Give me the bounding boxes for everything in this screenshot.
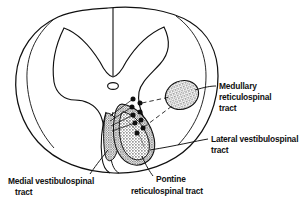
label-line: tract — [211, 145, 229, 155]
neuron-dot — [135, 131, 140, 136]
neuron-dot — [138, 110, 143, 115]
medullary-reticulospinal-tract-region — [161, 76, 203, 115]
central-canal — [108, 83, 119, 90]
label-line: Medial vestibulospinal — [8, 176, 94, 186]
medullary-reticulospinal-shape — [161, 76, 203, 115]
neuron-dot — [138, 101, 143, 106]
label-line: Medullary — [219, 81, 257, 91]
neuron-dot — [139, 118, 144, 123]
label-pontine-reticulospinal-tract: Pontine reticulospinal tract — [131, 174, 203, 196]
leader-medial — [90, 150, 108, 174]
label-line: reticulospinal — [219, 92, 271, 102]
label-line: tract — [15, 187, 33, 197]
label-medullary-reticulospinal-tract: Medullary reticulospinal tract — [219, 81, 271, 113]
leader-lateral — [150, 139, 208, 150]
label-line: Lateral vestibulospinal — [211, 134, 298, 144]
label-line: Pontine — [156, 174, 186, 184]
label-line: tract — [219, 103, 237, 113]
label-line: reticulospinal tract — [131, 186, 203, 196]
label-lateral-vestibulospinal-tract: Lateral vestibulospinal tract — [211, 134, 298, 155]
spinal-cord-diagram: Medullary reticulospinal tract Lateral v… — [0, 0, 306, 206]
label-medial-vestibulospinal-tract: Medial vestibulospinal tract — [8, 176, 94, 197]
